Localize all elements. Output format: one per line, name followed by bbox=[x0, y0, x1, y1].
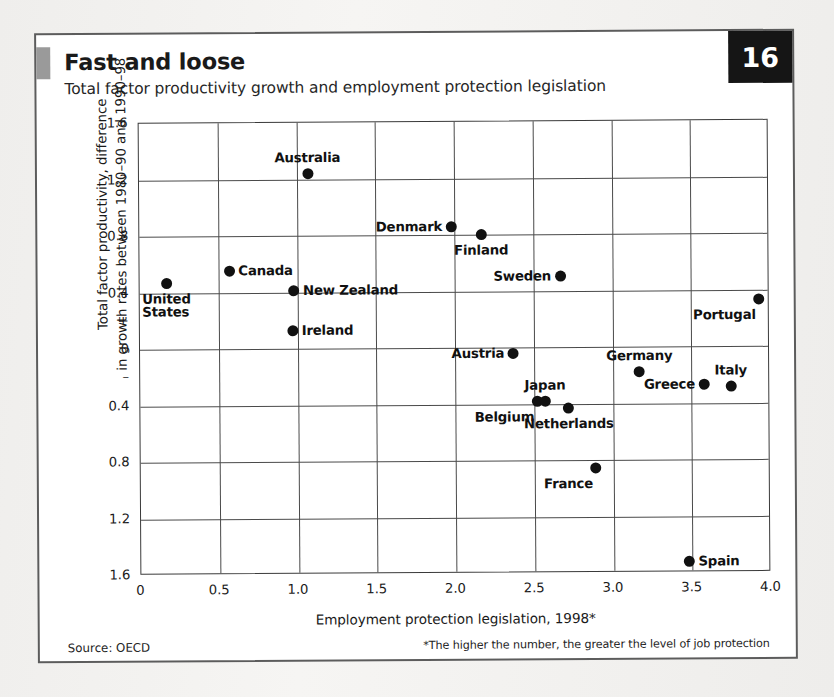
figure-card: 16 Fast and loose Total factor productiv… bbox=[34, 29, 798, 664]
x-axis-ticks: 00.51.01.52.02.53.03.54.0 bbox=[140, 579, 770, 603]
data-point-label: Canada bbox=[238, 264, 293, 278]
plot-frame: AustraliaDenmarkFinlandCanadaSwedenUnite… bbox=[138, 119, 771, 575]
data-point bbox=[287, 325, 298, 336]
y-tick-label: 1.6 bbox=[109, 567, 130, 582]
x-tick-label: 2.0 bbox=[445, 581, 466, 596]
data-point-label: France bbox=[544, 477, 593, 491]
data-point bbox=[634, 367, 645, 378]
x-tick-label: 4.0 bbox=[760, 579, 781, 594]
y-tick-label: 1.2 bbox=[107, 172, 128, 187]
chart-area: Total factor productivity, difference in… bbox=[36, 31, 800, 666]
x-tick-label: 3.5 bbox=[681, 579, 702, 594]
data-point-label: United States bbox=[142, 292, 191, 319]
y-tick-label: 0.8 bbox=[109, 454, 130, 469]
gridline-vertical bbox=[611, 121, 615, 571]
x-tick-label: 1.0 bbox=[287, 582, 308, 597]
y-tick-label: 0.8 bbox=[107, 228, 128, 243]
data-point-label: Denmark bbox=[376, 220, 442, 234]
data-point-label: New Zealand bbox=[303, 283, 398, 297]
data-point-label: Sweden bbox=[493, 270, 551, 284]
x-axis-label: Employment protection legislation, 1998* bbox=[141, 609, 771, 629]
y-tick-label: 1.6 bbox=[107, 115, 128, 130]
data-point-label: Greece bbox=[644, 378, 695, 392]
data-point bbox=[302, 168, 313, 179]
data-point-label: Netherlands bbox=[524, 417, 614, 431]
scanned-page: 16 Fast and loose Total factor productiv… bbox=[0, 0, 834, 697]
data-point-label: Spain bbox=[698, 554, 739, 568]
data-point bbox=[446, 221, 457, 232]
gridline-horizontal bbox=[140, 289, 768, 294]
data-point bbox=[161, 278, 172, 289]
x-tick-label: 3.0 bbox=[602, 580, 623, 595]
gridline-horizontal bbox=[139, 176, 767, 181]
data-point bbox=[288, 285, 299, 296]
data-point-label: Portugal bbox=[693, 308, 756, 322]
gridline-vertical bbox=[217, 123, 221, 573]
y-tick-label: 0.4 bbox=[108, 398, 129, 413]
data-point bbox=[753, 294, 764, 305]
data-point bbox=[590, 463, 601, 474]
y-tick-label: + bbox=[118, 313, 129, 328]
y-axis-ticks: 1.61.20.80.4+0–0.40.81.21.6 bbox=[82, 123, 131, 575]
data-point bbox=[508, 348, 519, 359]
y-tick-label: – bbox=[123, 370, 130, 385]
data-point bbox=[699, 379, 710, 390]
data-point bbox=[725, 380, 736, 391]
data-point-label: Germany bbox=[606, 349, 672, 363]
y-tick-label: 0.4 bbox=[108, 285, 129, 300]
x-tick-label: 0.5 bbox=[209, 582, 230, 597]
x-tick-label: 0 bbox=[136, 583, 144, 598]
source-note: Source: OECD bbox=[68, 641, 150, 656]
y-tick-label: 1.2 bbox=[109, 511, 130, 526]
data-point bbox=[555, 271, 566, 282]
data-point-label: Italy bbox=[714, 363, 747, 377]
data-point bbox=[563, 402, 574, 413]
footnote: *The higher the number, the greater the … bbox=[423, 637, 770, 652]
x-tick-label: 2.5 bbox=[524, 580, 545, 595]
data-point bbox=[224, 266, 235, 277]
data-point-label: Japan bbox=[525, 378, 566, 392]
y-tick-label: 0 bbox=[121, 341, 129, 356]
data-point-label: Austria bbox=[452, 346, 505, 360]
data-point bbox=[684, 555, 695, 566]
gridline-horizontal bbox=[139, 233, 767, 238]
data-point bbox=[540, 395, 551, 406]
data-point-label: Ireland bbox=[302, 323, 354, 337]
data-point bbox=[476, 229, 487, 240]
data-point-label: Finland bbox=[454, 243, 508, 257]
x-tick-label: 1.5 bbox=[366, 581, 387, 596]
data-point-label: Australia bbox=[274, 151, 340, 165]
